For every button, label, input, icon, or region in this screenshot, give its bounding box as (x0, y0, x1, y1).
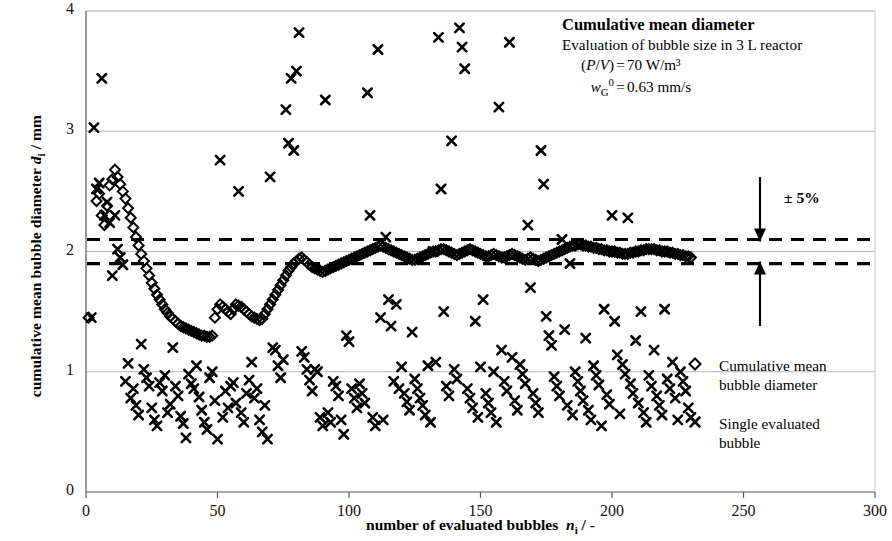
y-tick-label: 2 (44, 241, 74, 259)
series-cumulative-mean (84, 165, 696, 342)
legend-label-line1: Single evaluated (719, 414, 820, 433)
chart-subtitle: Evaluation of bubble size in 3 L reactor (562, 35, 882, 55)
param-power-volume-value: 70 W/m³ (627, 56, 681, 73)
chart-title-block: Cumulative mean diameter Evaluation of b… (562, 14, 882, 99)
x-tick-label: 50 (188, 502, 248, 520)
x-tick-label: 100 (319, 502, 379, 520)
legend-item-cumulative-mean: Cumulative mean bubble diameter (719, 356, 827, 394)
param-gas-velocity-value: 0.63 mm/s (627, 78, 691, 95)
legend-item-single-bubble: Single evaluated bubble (719, 414, 820, 452)
y-tick-label: 3 (44, 120, 74, 138)
band-percent-label: ± 5% (784, 189, 820, 207)
y-tick-label: 0 (44, 481, 74, 499)
param-power-volume: (P/V)=70 W/m³ (562, 55, 882, 75)
x-tick-label: 300 (845, 502, 892, 520)
y-tick-label: 4 (44, 0, 74, 18)
param-gas-velocity: wG0=0.63 mm/s (562, 75, 882, 99)
legend-label-line2: bubble diameter (719, 375, 827, 394)
x-tick-label: 0 (56, 502, 116, 520)
x-tick-label: 200 (582, 502, 642, 520)
x-axis-ticks (86, 492, 875, 498)
legend-label-line2: bubble (719, 433, 820, 452)
y-tick-label: 1 (44, 361, 74, 379)
legend-label-line1: Cumulative mean (719, 356, 827, 375)
chart-title: Cumulative mean diameter (562, 14, 882, 35)
x-tick-label: 150 (451, 502, 511, 520)
x-tick-label: 250 (714, 502, 774, 520)
